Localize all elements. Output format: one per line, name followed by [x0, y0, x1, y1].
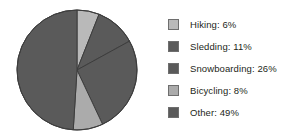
legend-label-sledding: Sledding: 11%: [190, 41, 252, 52]
pie-chart-svg: [15, 8, 139, 132]
legend-label-snowboarding: Snowboarding: 26%: [190, 63, 277, 74]
pie-slice-other: [17, 10, 77, 130]
legend-item-other: Other: 49%: [168, 101, 281, 123]
pie-slice-group: [17, 10, 137, 130]
legend-item-snowboarding: Snowboarding: 26%: [168, 57, 281, 79]
legend-swatch-other: [168, 107, 179, 118]
legend-swatch-snowboarding: [168, 63, 179, 74]
legend-label-hiking: Hiking: 6%: [190, 19, 236, 30]
chart-legend: Hiking: 6% Sledding: 11% Snowboarding: 2…: [168, 13, 281, 128]
legend-swatch-sledding: [168, 41, 179, 52]
legend-item-bicycling: Bicycling: 8%: [168, 79, 281, 101]
pie-chart: [15, 8, 139, 132]
legend-swatch-hiking: [168, 19, 179, 30]
legend-swatch-bicycling: [168, 85, 179, 96]
legend-item-sledding: Sledding: 11%: [168, 35, 281, 57]
pie-chart-figure: Hiking: 6% Sledding: 11% Snowboarding: 2…: [0, 0, 281, 137]
legend-label-other: Other: 49%: [190, 107, 239, 118]
legend-item-hiking: Hiking: 6%: [168, 13, 281, 35]
legend-label-bicycling: Bicycling: 8%: [190, 85, 248, 96]
